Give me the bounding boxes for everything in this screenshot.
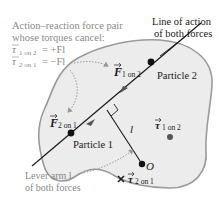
particle-1-dot bbox=[68, 130, 75, 137]
particle-2-label: Particle 2 bbox=[157, 70, 197, 81]
svg-text:= −Fl: = −Fl bbox=[42, 56, 65, 67]
torque-pair-line2: whose torques cancel: bbox=[12, 32, 105, 43]
svg-text:F: F bbox=[113, 65, 122, 79]
lever-arm-label-1: Lever arm l bbox=[25, 170, 72, 181]
line-of-action-label-2: of both forces bbox=[154, 28, 212, 39]
svg-text:1 on 2: 1 on 2 bbox=[162, 123, 181, 132]
torque-pair-line1: Action–reaction force pair bbox=[12, 20, 123, 31]
particle-2-dot bbox=[148, 59, 155, 66]
particle-1-label: Particle 1 bbox=[73, 139, 113, 150]
origin-dot bbox=[139, 161, 145, 167]
svg-text:1 on 2: 1 on 2 bbox=[122, 70, 141, 79]
svg-text:F: F bbox=[49, 116, 58, 130]
origin-label: O bbox=[146, 160, 154, 172]
torque-out-of-page-icon bbox=[167, 134, 173, 140]
svg-text:2 on 1: 2 on 1 bbox=[135, 177, 154, 186]
lever-arm-symbol: l bbox=[130, 123, 133, 135]
torque-eq-2: τ 2 on 1 = −Fl bbox=[12, 55, 65, 69]
torque-diagram: Action–reaction force pair whose torques… bbox=[0, 0, 220, 203]
svg-text:= +Fl: = +Fl bbox=[42, 44, 65, 55]
lever-arm-label-2: of both forces bbox=[25, 182, 81, 193]
svg-text:2 on 1: 2 on 1 bbox=[58, 121, 77, 130]
svg-text:2 on 1: 2 on 1 bbox=[19, 61, 37, 69]
torque-eq-1: τ 1 on 2 = +Fl bbox=[12, 43, 65, 57]
svg-text:1 on 2: 1 on 2 bbox=[19, 49, 37, 57]
line-of-action-label-1: Line of action bbox=[152, 16, 212, 27]
